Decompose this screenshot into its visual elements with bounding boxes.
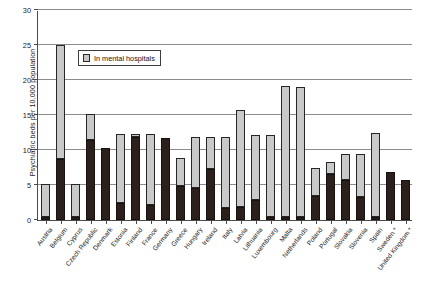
bar-segment-other-beds[interactable] [191, 188, 200, 220]
bar-segment-in-mental-hospitals[interactable] [116, 134, 125, 203]
bar-group[interactable] [386, 10, 395, 220]
bar-segment-in-mental-hospitals[interactable] [176, 158, 185, 185]
y-axis-tick-label: 10 [23, 146, 31, 155]
x-axis-tick [226, 220, 227, 224]
bar-segment-other-beds[interactable] [176, 186, 185, 220]
y-axis-tick-label: 5 [27, 181, 31, 190]
bar-group[interactable] [266, 10, 275, 220]
bar-segment-in-mental-hospitals[interactable] [266, 135, 275, 217]
x-axis-tick [196, 220, 197, 224]
bar-segment-in-mental-hospitals[interactable] [326, 162, 335, 174]
bar-group[interactable] [341, 10, 350, 220]
bar-group[interactable] [116, 10, 125, 220]
bar-segment-other-beds[interactable] [56, 159, 65, 220]
x-axis-tick [316, 220, 317, 224]
bar-group[interactable] [251, 10, 260, 220]
bar-group[interactable] [326, 10, 335, 220]
bar-segment-in-mental-hospitals[interactable] [206, 137, 215, 169]
bar-group[interactable] [86, 10, 95, 220]
x-axis-tick [286, 220, 287, 224]
bar-segment-in-mental-hospitals[interactable] [281, 86, 290, 216]
bar-group[interactable] [101, 10, 110, 220]
bar-group[interactable] [311, 10, 320, 220]
x-axis-tick [331, 220, 332, 224]
x-axis-tick [256, 220, 257, 224]
bar-group[interactable] [71, 10, 80, 220]
bar-segment-in-mental-hospitals[interactable] [56, 45, 65, 159]
bar-segment-in-mental-hospitals[interactable] [251, 135, 260, 200]
bar-group[interactable] [191, 10, 200, 220]
bar-segment-other-beds[interactable] [236, 207, 245, 220]
bar-segment-other-beds[interactable] [101, 148, 110, 220]
x-axis-tick [211, 220, 212, 224]
x-axis-tick [46, 220, 47, 224]
bar-group[interactable] [221, 10, 230, 220]
bar-segment-in-mental-hospitals[interactable] [296, 87, 305, 217]
bar-group[interactable] [176, 10, 185, 220]
bar-segment-other-beds[interactable] [251, 200, 260, 220]
bar-group[interactable] [356, 10, 365, 220]
chart-legend: In mental hospitals [78, 50, 161, 66]
y-axis-tick-label: 30 [23, 6, 31, 15]
bar-segment-in-mental-hospitals[interactable] [41, 184, 50, 217]
x-axis-tick [271, 220, 272, 224]
bar-segment-in-mental-hospitals[interactable] [356, 154, 365, 197]
bar-segment-other-beds[interactable] [401, 180, 410, 220]
bar-segment-in-mental-hospitals[interactable] [86, 114, 95, 140]
bar-group[interactable] [236, 10, 245, 220]
bar-segment-other-beds[interactable] [131, 137, 140, 220]
bar-segment-in-mental-hospitals[interactable] [311, 168, 320, 197]
bar-segment-other-beds[interactable] [206, 169, 215, 220]
bar-segment-other-beds[interactable] [116, 203, 125, 220]
legend-label-in-mental-hospitals: In mental hospitals [94, 54, 155, 63]
bars-layer [38, 11, 412, 220]
bar-group[interactable] [146, 10, 155, 220]
x-axis-tick [181, 220, 182, 224]
x-axis-tick [151, 220, 152, 224]
x-axis-tick [76, 220, 77, 224]
x-axis-tick [301, 220, 302, 224]
bar-segment-in-mental-hospitals[interactable] [236, 110, 245, 207]
bar-segment-in-mental-hospitals[interactable] [131, 134, 140, 138]
x-axis-tick [346, 220, 347, 224]
x-axis-tick [136, 220, 137, 224]
bar-segment-in-mental-hospitals[interactable] [371, 133, 380, 217]
bar-segment-in-mental-hospitals[interactable] [221, 137, 230, 208]
bar-group[interactable] [41, 10, 50, 220]
x-axis-tick [241, 220, 242, 224]
bar-segment-other-beds[interactable] [221, 208, 230, 220]
bar-segment-in-mental-hospitals[interactable] [341, 154, 350, 180]
bar-group[interactable] [296, 10, 305, 220]
legend-swatch-in-mental-hospitals [83, 54, 91, 62]
bar-segment-other-beds[interactable] [146, 205, 155, 220]
bar-segment-other-beds[interactable] [386, 172, 395, 220]
bar-group[interactable] [131, 10, 140, 220]
y-axis-tick-label: 15 [23, 111, 31, 120]
bar-segment-other-beds[interactable] [356, 197, 365, 220]
bar-group[interactable] [401, 10, 410, 220]
bar-group[interactable] [281, 10, 290, 220]
bar-group[interactable] [206, 10, 215, 220]
bar-segment-in-mental-hospitals[interactable] [71, 184, 80, 218]
x-axis-tick [91, 220, 92, 224]
y-axis-tick-label: 20 [23, 76, 31, 85]
x-axis-label-italy: Italy [220, 226, 233, 240]
bar-segment-other-beds[interactable] [341, 180, 350, 220]
x-axis-tick [376, 220, 377, 224]
bar-segment-in-mental-hospitals[interactable] [146, 134, 155, 205]
bar-segment-other-beds[interactable] [311, 196, 320, 220]
y-axis-tick-label: 0 [27, 216, 31, 225]
bar-group[interactable] [161, 10, 170, 220]
y-axis-tick: 30 [34, 9, 38, 10]
bar-group[interactable] [56, 10, 65, 220]
plot-area: 051015202530 [37, 11, 412, 221]
x-axis-tick [61, 220, 62, 224]
bar-segment-other-beds[interactable] [86, 140, 95, 221]
x-axis-tick [406, 220, 407, 224]
bar-segment-other-beds[interactable] [326, 174, 335, 220]
x-axis-tick [121, 220, 122, 224]
x-axis-tick [106, 220, 107, 224]
bar-segment-other-beds[interactable] [161, 138, 170, 220]
bar-group[interactable] [371, 10, 380, 220]
bar-segment-in-mental-hospitals[interactable] [191, 137, 200, 187]
